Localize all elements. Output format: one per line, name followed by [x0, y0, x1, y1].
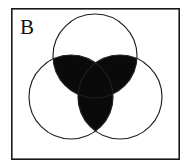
- venn-diagram: B: [0, 0, 191, 167]
- panel-label: B: [20, 15, 34, 39]
- figure-panel: B: [0, 0, 191, 167]
